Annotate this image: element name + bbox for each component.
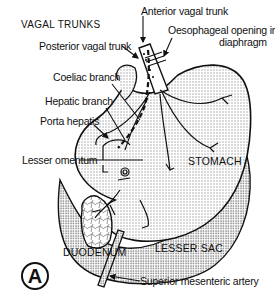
label-duodenum: DUODENUM — [63, 246, 126, 258]
label-coeliac-branch: Coeliac branch — [53, 71, 120, 83]
label-porta-hepatis: Porta hepatis — [40, 115, 99, 127]
label-anterior-vagal-trunk: Anterior vagal trunk — [141, 5, 228, 17]
label-lesser-sac: LESSER SAC — [155, 242, 223, 254]
label-oesophageal-opening: Oesophageal opening in — [168, 24, 275, 36]
label-lesser-omentum: Lesser omentum — [22, 154, 97, 166]
label-stomach: STOMACH — [188, 155, 242, 167]
label-oesophageal-opening-line2: diaphragm — [219, 36, 267, 48]
label-superior-mesenteric-artery: Superior mesenteric artery — [140, 275, 259, 287]
figure-title: VAGAL TRUNKS — [21, 19, 101, 31]
label-hepatic-branch: Hepatic branch — [45, 95, 113, 107]
duodenum-region — [81, 196, 112, 248]
label-posterior-vagal-trunk: Posterior vagal trunk — [39, 40, 131, 52]
oesophagus — [139, 44, 168, 94]
panel-label-badge: A — [21, 262, 49, 290]
